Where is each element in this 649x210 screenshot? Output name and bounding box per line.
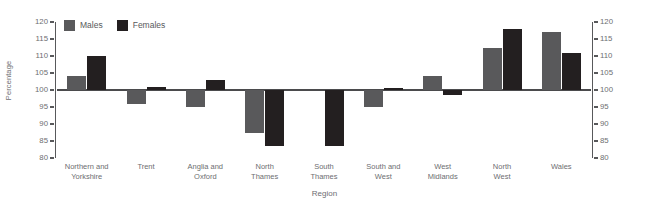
y-tick-label-left-100: 100 bbox=[35, 86, 48, 94]
y-tick-left-105 bbox=[50, 72, 54, 73]
y-axis-title-label: Percentage bbox=[5, 60, 14, 99]
y-tick-label-left-95: 95 bbox=[39, 103, 48, 111]
y-tick-right-110 bbox=[594, 55, 598, 56]
x-category-label-1: Trent bbox=[116, 162, 175, 172]
y-tick-right-100 bbox=[594, 89, 598, 90]
bar-males-6 bbox=[423, 76, 442, 90]
x-category-label-5: South and West bbox=[354, 162, 413, 181]
y-tick-label-left-90: 90 bbox=[39, 120, 48, 128]
y-tick-right-95 bbox=[594, 106, 598, 107]
bar-females-4 bbox=[325, 90, 344, 146]
y-tick-right-80 bbox=[594, 157, 598, 158]
y-tick-label-right-120: 120 bbox=[600, 18, 613, 26]
y-tick-left-95 bbox=[50, 106, 54, 107]
y-tick-label-left-115: 115 bbox=[36, 35, 48, 43]
y-tick-right-115 bbox=[594, 38, 598, 39]
plot-area: 8080858590909595100100105105110110115115… bbox=[57, 22, 591, 158]
y-tick-label-right-110: 110 bbox=[600, 52, 612, 60]
y-tick-left-90 bbox=[50, 123, 54, 124]
bar-chart: Percentage MalesFemales 8080858590909595… bbox=[0, 0, 649, 210]
bar-males-2 bbox=[186, 90, 205, 107]
y-axis-title: Percentage bbox=[2, 0, 16, 160]
y-tick-label-right-80: 80 bbox=[600, 154, 609, 162]
y-tick-label-right-85: 85 bbox=[600, 137, 609, 145]
bar-males-0 bbox=[67, 76, 86, 90]
x-category-label-4: South Thames bbox=[294, 162, 353, 181]
y-tick-label-left-80: 80 bbox=[39, 154, 48, 162]
x-axis-title: Region bbox=[0, 189, 649, 198]
bar-males-7 bbox=[483, 48, 502, 91]
bar-females-6 bbox=[443, 90, 462, 95]
y-tick-label-right-100: 100 bbox=[600, 86, 613, 94]
bar-females-2 bbox=[206, 80, 225, 90]
x-category-label-6: West Midlands bbox=[413, 162, 472, 181]
y-tick-right-120 bbox=[594, 21, 598, 22]
y-tick-left-120 bbox=[50, 21, 54, 22]
x-category-label-2: Anglia and Oxford bbox=[176, 162, 235, 181]
y-tick-right-85 bbox=[594, 140, 598, 141]
bar-females-5 bbox=[384, 88, 403, 90]
y-tick-label-left-110: 110 bbox=[36, 52, 48, 60]
y-tick-label-left-85: 85 bbox=[39, 137, 48, 145]
bar-females-0 bbox=[87, 56, 106, 90]
y-tick-label-left-120: 120 bbox=[35, 18, 48, 26]
bar-males-1 bbox=[127, 90, 146, 104]
y-tick-left-115 bbox=[50, 38, 54, 39]
x-category-label-8: Wales bbox=[532, 162, 591, 172]
y-tick-left-110 bbox=[50, 55, 54, 56]
y-tick-right-90 bbox=[594, 123, 598, 124]
bar-males-3 bbox=[245, 90, 264, 133]
x-category-label-3: North Thames bbox=[235, 162, 294, 181]
y-axis-right-spine bbox=[592, 22, 593, 158]
bar-males-8 bbox=[542, 32, 561, 90]
x-category-label-7: North West bbox=[472, 162, 531, 181]
y-tick-left-80 bbox=[50, 157, 54, 158]
y-tick-left-100 bbox=[50, 89, 54, 90]
y-tick-right-105 bbox=[594, 72, 598, 73]
y-tick-label-left-105: 105 bbox=[35, 69, 48, 77]
y-tick-label-right-90: 90 bbox=[600, 120, 609, 128]
y-tick-label-right-115: 115 bbox=[600, 35, 612, 43]
bar-females-3 bbox=[265, 90, 284, 146]
y-tick-label-right-105: 105 bbox=[600, 69, 613, 77]
bar-males-5 bbox=[364, 90, 383, 107]
y-tick-left-85 bbox=[50, 140, 54, 141]
y-tick-label-right-95: 95 bbox=[600, 103, 609, 111]
bar-females-8 bbox=[562, 53, 581, 90]
bar-females-7 bbox=[503, 29, 522, 90]
x-category-label-0: Northern and Yorkshire bbox=[57, 162, 116, 181]
bar-females-1 bbox=[147, 87, 166, 90]
